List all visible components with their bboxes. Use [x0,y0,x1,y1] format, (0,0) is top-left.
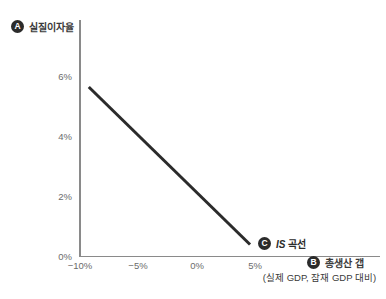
y-axis-label: A 실질이자율 [11,19,74,34]
y-tick-label-2: 2% [44,192,72,202]
x-tick-label-neg5: −5% [116,261,160,271]
y-axis-line [79,20,81,257]
x-tick-label-neg10: −10% [58,261,102,271]
is-curve-chart: A 실질이자율 6% 4% 2% 0% −10% −5% 0% 5% C IS … [0,0,386,299]
badge-b-icon: B [307,256,320,269]
series-label-text: IS 곡선 [276,236,306,251]
x-axis-sublabel: (실제 GDP, 잠재 GDP 대비) [253,270,386,284]
y-axis-label-text: 실질이자율 [29,19,74,34]
badge-a-icon: A [11,20,24,33]
y-tick-label-4: 4% [44,132,72,142]
badge-c-icon: C [258,237,271,250]
x-axis-label: B 총생산 갭 [307,255,364,270]
x-tick-label-0: 0% [175,261,219,271]
x-axis-label-text: 총생산 갭 [325,255,364,270]
series-label-rest: 곡선 [285,239,306,250]
plot-area [79,20,380,257]
series-label: C IS 곡선 [258,236,306,251]
y-tick-label-6: 6% [44,72,72,82]
